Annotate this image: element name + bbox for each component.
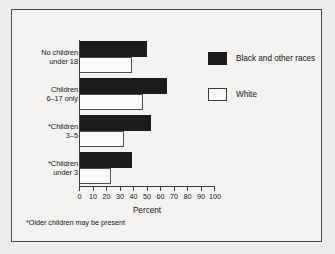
x-tick-label-40: 40 bbox=[130, 193, 138, 201]
chart-footnote: *Older children may be present bbox=[26, 218, 125, 227]
x-tick-60 bbox=[160, 187, 161, 191]
x-tick-label-50: 50 bbox=[143, 193, 151, 201]
x-tick-70 bbox=[174, 187, 175, 191]
category-label-no-children-under-18: No children under 18 bbox=[12, 48, 78, 66]
x-tick-10 bbox=[93, 187, 94, 191]
x-tick-20 bbox=[106, 187, 107, 191]
legend-item-white: White bbox=[208, 88, 257, 101]
x-tick-label-0: 0 bbox=[78, 193, 82, 201]
bar-black-children-6-17-only bbox=[79, 78, 167, 94]
legend-item-black-and-other-races: Black and other races bbox=[208, 52, 315, 65]
y-axis-line bbox=[79, 40, 80, 186]
legend-label-black-and-other-races: Black and other races bbox=[236, 54, 315, 63]
bar-white-children-3-5 bbox=[79, 131, 124, 147]
x-axis-title: Percent bbox=[133, 206, 161, 215]
legend-label-white: White bbox=[236, 90, 257, 99]
x-tick-90 bbox=[201, 187, 202, 191]
category-label-children-under-3: *Children under 3 bbox=[12, 159, 78, 177]
chart-plot-area: No children under 18 Children 6–17 only … bbox=[12, 10, 323, 243]
category-label-children-3-5: *Children 3–5 bbox=[12, 122, 78, 140]
bar-white-no-children-under-18 bbox=[79, 57, 132, 73]
bar-white-children-under-3 bbox=[79, 168, 111, 184]
bar-black-children-under-3 bbox=[79, 152, 132, 168]
x-tick-100 bbox=[214, 187, 215, 191]
bar-black-children-3-5 bbox=[79, 115, 151, 131]
x-tick-label-60: 60 bbox=[157, 193, 165, 201]
legend-swatch-outline-icon bbox=[208, 88, 227, 101]
x-tick-label-80: 80 bbox=[184, 193, 192, 201]
category-label-children-6-17-only: Children 6–17 only bbox=[12, 85, 78, 103]
x-tick-label-70: 70 bbox=[170, 193, 178, 201]
x-tick-label-100: 100 bbox=[209, 193, 221, 201]
bar-white-children-6-17-only bbox=[79, 94, 143, 110]
x-tick-50 bbox=[147, 187, 148, 191]
chart-frame: No children under 18 Children 6–17 only … bbox=[11, 9, 322, 242]
x-tick-label-20: 20 bbox=[103, 193, 111, 201]
x-tick-80 bbox=[187, 187, 188, 191]
legend-swatch-filled-icon bbox=[208, 52, 227, 65]
x-tick-label-30: 30 bbox=[116, 193, 124, 201]
x-tick-40 bbox=[133, 187, 134, 191]
bar-black-no-children-under-18 bbox=[79, 41, 147, 57]
x-tick-label-10: 10 bbox=[89, 193, 97, 201]
x-tick-0 bbox=[79, 187, 80, 191]
x-tick-label-90: 90 bbox=[197, 193, 205, 201]
x-tick-30 bbox=[120, 187, 121, 191]
